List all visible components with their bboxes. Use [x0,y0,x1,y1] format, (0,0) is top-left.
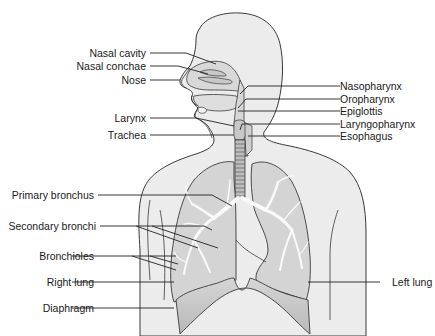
label-nasal-conchae: Nasal conchae [77,60,146,72]
label-nose: Nose [121,74,146,86]
label-nasal-cavity: Nasal cavity [89,47,146,59]
label-diaphragm: Diaphragm [43,302,94,314]
label-laryngopharynx: Laryngopharynx [340,118,415,130]
larynx-shape [234,120,245,140]
label-trachea: Trachea [108,129,146,141]
label-epiglottis: Epiglottis [340,105,383,117]
label-primary-bronchus: Primary bronchus [12,189,94,201]
label-oropharynx: Oropharynx [340,93,395,105]
lip-shape [198,107,206,113]
label-right-lung: Right lung [47,276,94,288]
label-left-lung: Left lung [392,276,432,288]
label-secondary-bronchi: Secondary bronchi [8,220,96,232]
label-larynx: Larynx [114,112,146,124]
trachea-shape [235,140,245,198]
label-nasopharynx: Nasopharynx [340,80,402,92]
label-bronchioles: Bronchioles [39,250,94,262]
label-esophagus: Esophagus [340,130,393,142]
